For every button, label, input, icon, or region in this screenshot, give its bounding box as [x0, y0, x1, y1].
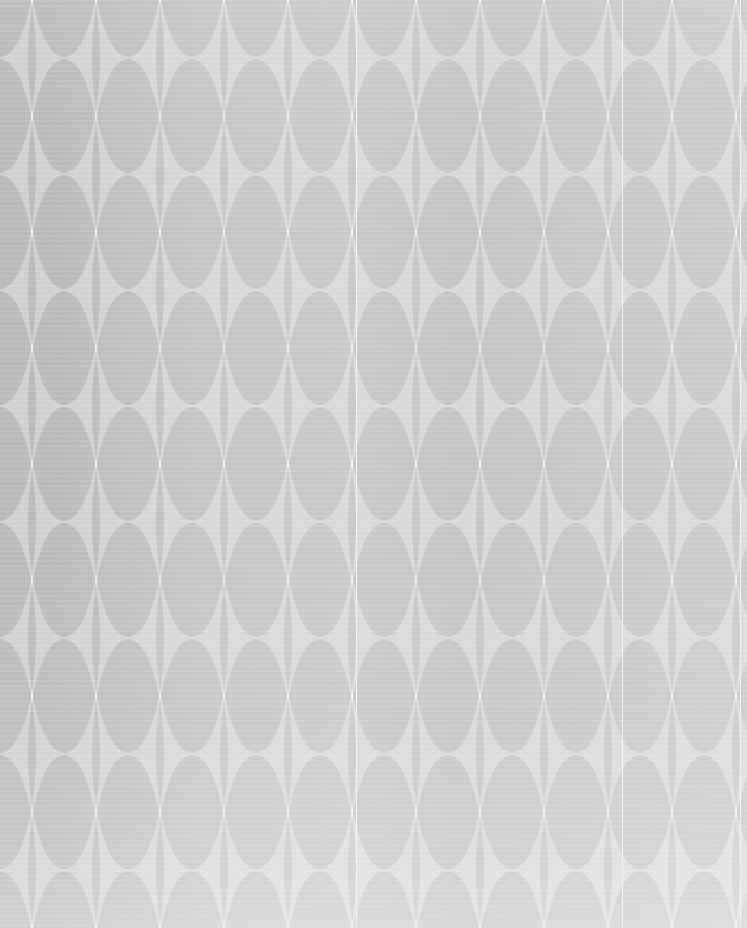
pattern-canvas: [0, 0, 747, 928]
ellipse-lattice-graphic: [0, 0, 747, 928]
pattern-ellipse-field: [0, 0, 747, 928]
